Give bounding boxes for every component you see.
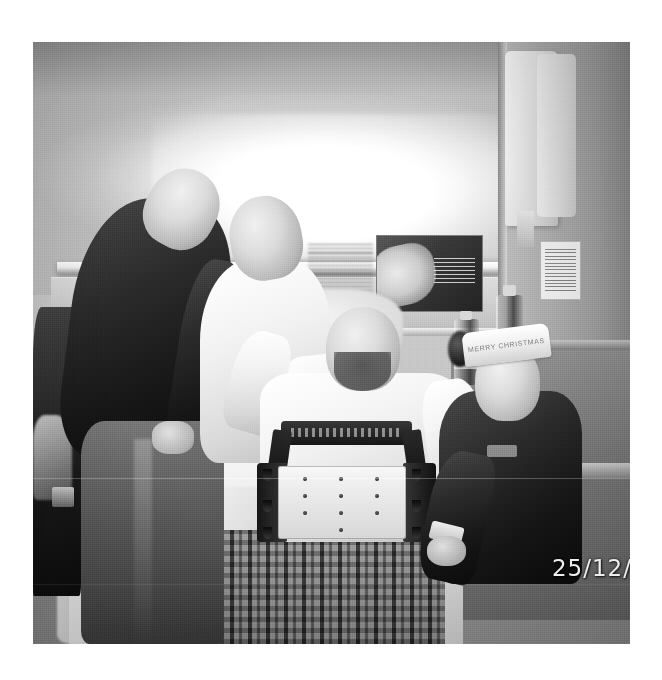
photograph: MERRY CHRISTMAS 25/12/ (33, 42, 630, 644)
page-canvas: MERRY CHRISTMAS 25/12/ (0, 0, 662, 680)
brace-rivet (375, 511, 379, 515)
scan-line-artifact (33, 584, 630, 585)
jeans-crease-highlight (134, 439, 152, 644)
brace-rivet (303, 494, 307, 498)
brace-rivet (339, 528, 343, 532)
hanging-towel-tail (517, 211, 535, 247)
hanging-towel-second (537, 54, 576, 217)
camera-date-stamp: 25/12/ (552, 555, 630, 581)
wall-notice (540, 241, 581, 300)
brace-rivet (339, 511, 343, 515)
jacket-chest-logo (487, 445, 517, 457)
brace-buckle (412, 527, 421, 539)
brace-rivet (375, 494, 379, 498)
bottle-cap (460, 311, 472, 320)
brace-rivet (339, 494, 343, 498)
brace-buckle (263, 527, 272, 539)
scan-line-artifact (33, 478, 630, 479)
torso-brace-upper-strap (281, 421, 412, 445)
bottle-cap (503, 285, 516, 295)
poster-caption-text (434, 258, 476, 284)
patient-checked-pyjama-trousers (194, 530, 445, 644)
wristwatch (52, 487, 73, 506)
brace-buckle (263, 500, 272, 512)
man-leather-jacket-hand (152, 421, 194, 454)
torso-brace-front-panel (278, 466, 406, 538)
brace-buckle (412, 500, 421, 512)
man-christmas-headband-hand (427, 536, 466, 566)
brace-rivet (303, 511, 307, 515)
headband-text: MERRY CHRISTMAS (463, 336, 550, 353)
patient-beard (334, 352, 391, 391)
